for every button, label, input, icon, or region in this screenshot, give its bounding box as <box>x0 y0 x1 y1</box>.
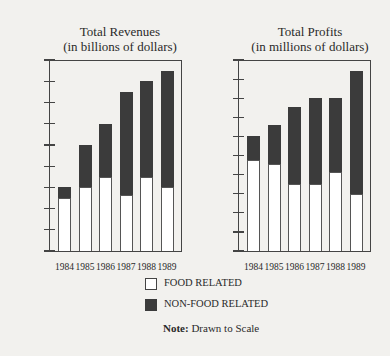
profits-bar-1985 <box>268 125 281 251</box>
profits-y-tick <box>233 136 244 137</box>
profits-bar-food-segment <box>309 184 322 251</box>
profits-title: Total Profits <box>245 24 375 39</box>
profits-y-tick <box>233 59 244 60</box>
revenues-bar-food-segment <box>140 177 153 251</box>
revenues-bar-1988 <box>140 81 153 251</box>
revenues-bar-nonfood-segment <box>99 124 112 177</box>
revenues-bar-food-segment <box>58 198 71 251</box>
revenues-bar-1987 <box>120 92 133 251</box>
note-label: Note: <box>163 322 189 334</box>
profits-bar-1987 <box>309 98 322 251</box>
revenues-y-tick <box>44 208 55 209</box>
revenues-chart-title: Total Revenues (in billions of dollars) <box>60 24 180 54</box>
profits-bar-nonfood-segment <box>309 98 322 184</box>
profits-bar-nonfood-segment <box>247 136 260 160</box>
legend-label-food: FOOD RELATED <box>164 277 242 288</box>
profits-bar-food-segment <box>268 164 281 251</box>
profits-y-tick <box>233 117 244 118</box>
revenues-y-tick <box>44 250 55 251</box>
revenues-bar-nonfood-segment <box>58 187 71 198</box>
profits-chart-title: Total Profits (in millions of dollars) <box>245 24 375 54</box>
profits-bar-food-segment <box>247 160 260 251</box>
profits-bar-nonfood-segment <box>268 125 281 164</box>
profits-y-tick <box>233 98 244 99</box>
profits-subtitle: (in millions of dollars) <box>245 39 375 54</box>
revenues-subtitle: (in billions of dollars) <box>60 39 180 54</box>
profits-bar-nonfood-segment <box>288 107 301 184</box>
revenues-y-tick <box>44 144 55 145</box>
food-swatch-icon <box>145 278 157 290</box>
profits-y-tick <box>233 174 244 175</box>
profits-y-tick <box>233 79 244 80</box>
revenues-bar-food-segment <box>99 177 112 251</box>
profits-bar-food-segment <box>288 184 301 251</box>
profits-y-tick <box>233 193 244 194</box>
revenues-y-tick <box>44 166 55 167</box>
profits-x-tick-label: 1989 <box>341 262 371 272</box>
profits-bar-nonfood-segment <box>350 71 363 194</box>
revenues-bar-nonfood-segment <box>161 71 174 188</box>
revenues-y-tick <box>44 59 55 60</box>
revenues-bar-food-segment <box>120 195 133 251</box>
revenues-title: Total Revenues <box>60 24 180 39</box>
profits-y-tick <box>233 231 244 232</box>
revenues-bar-nonfood-segment <box>79 145 92 187</box>
revenues-bar-nonfood-segment <box>120 92 133 195</box>
profits-bar-food-segment <box>350 194 363 251</box>
revenues-bar-nonfood-segment <box>140 81 153 177</box>
profits-bar-nonfood-segment <box>329 98 342 172</box>
revenues-bar-1984 <box>58 187 71 251</box>
revenues-y-tick <box>44 123 55 124</box>
revenues-y-tick <box>44 81 55 82</box>
profits-bar-1988 <box>329 98 342 251</box>
profits-bar-1989 <box>350 71 363 251</box>
chart-note: Note: Drawn to Scale <box>163 322 259 334</box>
profits-bar-1984 <box>247 136 260 251</box>
revenues-bar-1985 <box>79 145 92 251</box>
profits-y-tick <box>233 212 244 213</box>
revenues-bar-food-segment <box>161 187 174 251</box>
revenues-bar-food-segment <box>79 187 92 251</box>
revenues-x-tick-label: 1989 <box>152 262 182 272</box>
revenues-bar-1986 <box>99 124 112 251</box>
revenues-bar-1989 <box>161 71 174 251</box>
profits-y-tick <box>233 155 244 156</box>
profits-y-tick <box>233 250 244 251</box>
revenues-y-tick <box>44 102 55 103</box>
profits-bar-food-segment <box>329 172 342 251</box>
revenues-y-tick <box>44 187 55 188</box>
nonfood-swatch-icon <box>145 299 157 311</box>
note-text: Drawn to Scale <box>189 322 260 334</box>
legend-label-nonfood: NON-FOOD RELATED <box>164 298 268 309</box>
profits-bar-1986 <box>288 107 301 251</box>
revenues-y-tick <box>44 229 55 230</box>
